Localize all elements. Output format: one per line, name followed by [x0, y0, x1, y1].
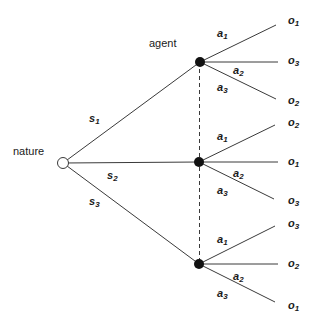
edge-s2 — [63, 162, 199, 163]
action-label-bot-a3: a3 — [217, 288, 228, 299]
action-label-bot-a1: a1 — [217, 234, 228, 245]
outcome-label-bot-2: o2 — [288, 258, 299, 269]
edge-s3 — [63, 163, 199, 264]
action-label-mid-a2: a2 — [233, 168, 244, 179]
edge-s1 — [63, 62, 200, 163]
agent-node-middle — [194, 157, 204, 167]
nature-chance-node — [58, 158, 69, 169]
action-label-top-a1: a1 — [217, 28, 228, 39]
edge-mid-a1 — [199, 125, 275, 162]
outcome-label-top-3: o2 — [288, 95, 299, 106]
outcome-label-bot-3: o1 — [288, 300, 299, 311]
state-label-s1: s1 — [89, 113, 100, 124]
edge-top-a1 — [200, 25, 276, 62]
agent-node-top — [195, 57, 205, 67]
outcome-label-top-1: o1 — [288, 15, 299, 26]
state-label-s3: s3 — [89, 196, 100, 207]
outcome-label-mid-1: o2 — [288, 117, 299, 128]
agent-node-bottom — [194, 259, 204, 269]
outcome-label-mid-3: o3 — [288, 195, 299, 206]
edge-bot-a1 — [199, 226, 275, 264]
action-label-top-a2: a2 — [233, 65, 244, 76]
tree-edges — [0, 0, 315, 327]
decision-tree-diagram: nature agent s1 s2 s3 a1 a2 a3 a1 a2 a3 … — [0, 0, 315, 327]
outcome-label-mid-2: o1 — [288, 156, 299, 167]
nature-label: nature — [13, 146, 44, 157]
agent-label: agent — [149, 38, 177, 49]
outcome-label-top-2: o3 — [288, 55, 299, 66]
state-label-s2: s2 — [107, 170, 118, 181]
action-label-mid-a1: a1 — [217, 131, 228, 142]
action-label-mid-a3: a3 — [217, 185, 228, 196]
action-label-bot-a2: a2 — [233, 271, 244, 282]
outcome-label-bot-1: o3 — [288, 218, 299, 229]
action-label-top-a3: a3 — [217, 82, 228, 93]
